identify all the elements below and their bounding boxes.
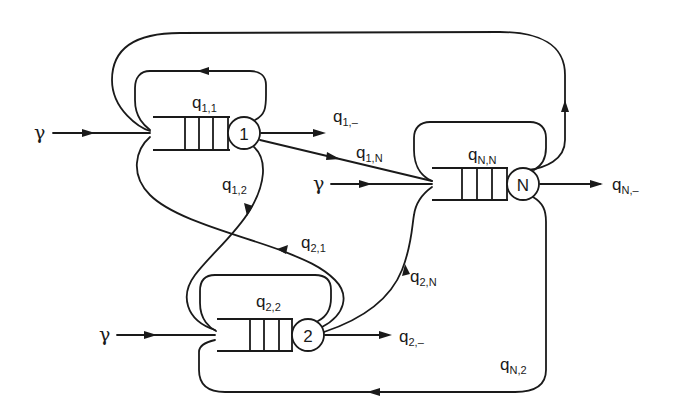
label-q2-exit: q2,– <box>399 327 425 348</box>
edge-2-to-1 <box>137 137 344 327</box>
edge-1-to-N <box>260 140 432 181</box>
arrow-up-icon <box>561 100 569 112</box>
label-q1-exit: q1,– <box>333 107 359 128</box>
label-q21: q2,1 <box>301 233 326 254</box>
arrow-right-icon <box>379 331 392 339</box>
label-q22: q2,2 <box>256 292 281 313</box>
node-N-label: N <box>517 176 529 195</box>
label-q12: q1,2 <box>222 175 247 196</box>
arrow-right-icon <box>144 331 157 339</box>
arrow-right-icon <box>326 152 340 160</box>
arrow-left-icon <box>367 388 380 396</box>
label-q11: q1,1 <box>192 93 217 114</box>
arrival-gamma-N: γ <box>313 172 324 194</box>
arrow-right-icon <box>359 180 372 188</box>
label-qN2: qN,2 <box>500 355 527 376</box>
arrival-gamma-1: γ <box>34 121 45 143</box>
queue-node-N <box>432 168 508 200</box>
label-q1N: q1,N <box>356 143 383 164</box>
node-1-label: 1 <box>239 125 248 144</box>
label-qNN: qN,N <box>468 145 496 166</box>
label-qN-exit: qN,– <box>612 175 639 196</box>
queue-node-1 <box>153 117 230 150</box>
edge-N-to-2 <box>199 197 546 392</box>
arrow-left-icon <box>197 67 209 75</box>
label-q2N: q2,N <box>410 267 437 288</box>
arrow-right-icon <box>313 129 326 137</box>
arrow-right-icon <box>82 129 95 137</box>
queueing-network-diagram: 1 γ N γ <box>0 0 673 418</box>
arrow-right-icon <box>590 180 603 188</box>
queue-node-2 <box>217 319 293 351</box>
arrival-gamma-2: γ <box>99 323 110 345</box>
node-2-label: 2 <box>303 327 312 346</box>
